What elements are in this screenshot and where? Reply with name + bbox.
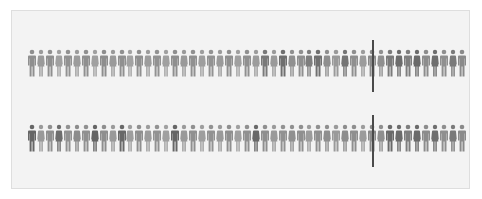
female-person-icon — [198, 49, 206, 77]
male-person-icon — [261, 124, 269, 152]
female-person-icon — [323, 49, 331, 77]
male-person-icon — [458, 49, 466, 77]
female-person-icon — [449, 49, 457, 77]
male-person-icon — [153, 124, 161, 152]
male-person-icon — [422, 49, 430, 77]
female-person-icon — [216, 49, 224, 77]
female-person-icon — [413, 124, 421, 152]
female-person-icon — [270, 49, 278, 77]
female-person-icon — [305, 49, 313, 77]
female-person-icon — [341, 49, 349, 77]
male-person-icon — [458, 124, 466, 152]
female-person-icon — [413, 49, 421, 77]
female-person-icon — [144, 124, 152, 152]
female-person-icon — [395, 49, 403, 77]
female-person-icon — [431, 49, 439, 77]
male-person-icon — [171, 124, 179, 152]
male-person-icon — [350, 49, 358, 77]
male-person-icon — [225, 49, 233, 77]
female-person-icon — [431, 124, 439, 152]
pictogram-row-2 — [28, 124, 466, 154]
male-person-icon — [332, 49, 340, 77]
male-person-icon — [243, 124, 251, 152]
female-person-icon — [73, 49, 81, 77]
female-person-icon — [323, 124, 331, 152]
male-person-icon — [28, 124, 36, 152]
female-person-icon — [162, 124, 170, 152]
female-person-icon — [55, 124, 63, 152]
male-person-icon — [440, 124, 448, 152]
male-person-icon — [82, 49, 90, 77]
female-person-icon — [91, 124, 99, 152]
female-person-icon — [449, 124, 457, 152]
female-person-icon — [162, 49, 170, 77]
female-person-icon — [126, 124, 134, 152]
male-person-icon — [118, 49, 126, 77]
male-person-icon — [243, 49, 251, 77]
male-person-icon — [46, 124, 54, 152]
male-person-icon — [386, 49, 394, 77]
female-person-icon — [234, 49, 242, 77]
male-person-icon — [82, 124, 90, 152]
male-person-icon — [207, 124, 215, 152]
male-person-icon — [386, 124, 394, 152]
male-person-icon — [118, 124, 126, 152]
marker-line-row-2 — [372, 115, 374, 167]
female-person-icon — [126, 49, 134, 77]
female-person-icon — [73, 124, 81, 152]
female-person-icon — [359, 124, 367, 152]
male-person-icon — [46, 49, 54, 77]
male-person-icon — [135, 124, 143, 152]
female-person-icon — [109, 49, 117, 77]
male-person-icon — [404, 124, 412, 152]
male-person-icon — [279, 49, 287, 77]
male-person-icon — [135, 49, 143, 77]
male-person-icon — [189, 124, 197, 152]
female-person-icon — [91, 49, 99, 77]
pictogram-panel — [11, 10, 470, 189]
male-person-icon — [314, 124, 322, 152]
female-person-icon — [377, 49, 385, 77]
female-person-icon — [252, 124, 260, 152]
female-person-icon — [37, 124, 45, 152]
male-person-icon — [297, 49, 305, 77]
female-person-icon — [198, 124, 206, 152]
male-person-icon — [189, 49, 197, 77]
male-person-icon — [297, 124, 305, 152]
female-person-icon — [180, 49, 188, 77]
male-person-icon — [171, 49, 179, 77]
female-person-icon — [341, 124, 349, 152]
female-person-icon — [377, 124, 385, 152]
female-person-icon — [305, 124, 313, 152]
female-person-icon — [216, 124, 224, 152]
male-person-icon — [207, 49, 215, 77]
male-person-icon — [332, 124, 340, 152]
male-person-icon — [440, 49, 448, 77]
male-person-icon — [314, 49, 322, 77]
female-person-icon — [395, 124, 403, 152]
male-person-icon — [261, 49, 269, 77]
male-person-icon — [100, 124, 108, 152]
male-person-icon — [350, 124, 358, 152]
female-person-icon — [359, 49, 367, 77]
female-person-icon — [288, 49, 296, 77]
male-person-icon — [279, 124, 287, 152]
female-person-icon — [180, 124, 188, 152]
female-person-icon — [288, 124, 296, 152]
marker-line-row-1 — [372, 40, 374, 92]
male-person-icon — [422, 124, 430, 152]
male-person-icon — [64, 49, 72, 77]
female-person-icon — [270, 124, 278, 152]
male-person-icon — [100, 49, 108, 77]
female-person-icon — [109, 124, 117, 152]
female-person-icon — [252, 49, 260, 77]
male-person-icon — [225, 124, 233, 152]
female-person-icon — [37, 49, 45, 77]
male-person-icon — [28, 49, 36, 77]
male-person-icon — [64, 124, 72, 152]
male-person-icon — [404, 49, 412, 77]
male-person-icon — [153, 49, 161, 77]
female-person-icon — [55, 49, 63, 77]
pictogram-row-1 — [28, 49, 466, 79]
female-person-icon — [144, 49, 152, 77]
